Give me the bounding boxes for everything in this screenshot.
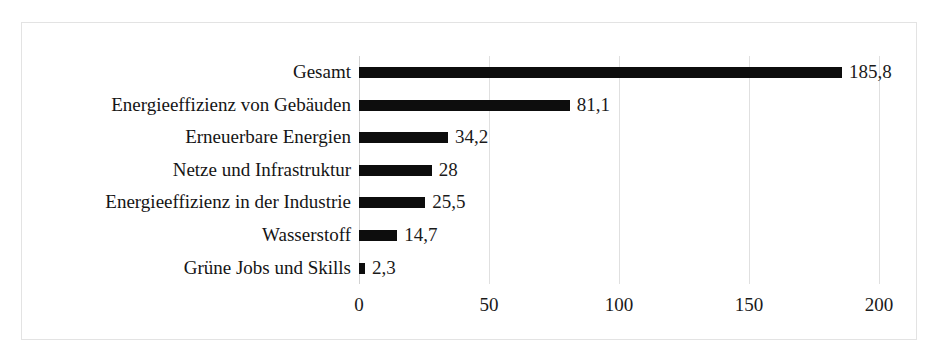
bar[interactable]	[359, 100, 570, 111]
bar-band: 14,7	[359, 219, 933, 252]
bar-band: 34,2	[359, 121, 933, 154]
category-label: Gesamt	[22, 56, 351, 89]
category-axis-labels: GesamtEnergieeffizienz von GebäudenErneu…	[22, 56, 351, 284]
plot-area: 185,881,134,22825,514,72,3	[359, 56, 879, 284]
category-label: Energieeffizienz in der Industrie	[22, 186, 351, 219]
bar-band: 28	[359, 154, 933, 187]
category-label: Grüne Jobs und Skills	[22, 252, 351, 285]
bar-value-label: 28	[439, 157, 458, 183]
category-label: Energieeffizienz von Gebäuden	[22, 89, 351, 122]
bar-value-label: 81,1	[577, 92, 610, 118]
bar[interactable]	[359, 230, 397, 241]
x-axis-tick-label: 50	[480, 291, 499, 319]
bar-value-label: 14,7	[404, 222, 437, 248]
bar[interactable]	[359, 197, 425, 208]
bar[interactable]	[359, 165, 432, 176]
x-axis-tick-label: 200	[865, 291, 894, 319]
x-axis-tick-label: 150	[735, 291, 764, 319]
category-label: Wasserstoff	[22, 219, 351, 252]
bar[interactable]	[359, 263, 365, 274]
category-label: Erneuerbare Energien	[22, 121, 351, 154]
bar[interactable]	[359, 132, 448, 143]
x-axis-tick-label: 0	[354, 291, 364, 319]
bar-value-label: 2,3	[372, 255, 396, 281]
category-label: Netze und Infrastruktur	[22, 154, 351, 187]
bar-value-label: 185,8	[849, 59, 892, 85]
bar-value-label: 25,5	[432, 189, 465, 215]
chart-frame: GesamtEnergieeffizienz von GebäudenErneu…	[21, 22, 917, 340]
bar-band: 185,8	[359, 56, 933, 89]
bar-band: 81,1	[359, 89, 933, 122]
bar-band: 25,5	[359, 186, 933, 219]
bar-value-label: 34,2	[455, 124, 488, 150]
bar[interactable]	[359, 67, 842, 78]
bar-band: 2,3	[359, 252, 933, 285]
x-axis-tick-label: 100	[605, 291, 634, 319]
value-axis-tick-labels: 050100150200	[359, 291, 879, 323]
